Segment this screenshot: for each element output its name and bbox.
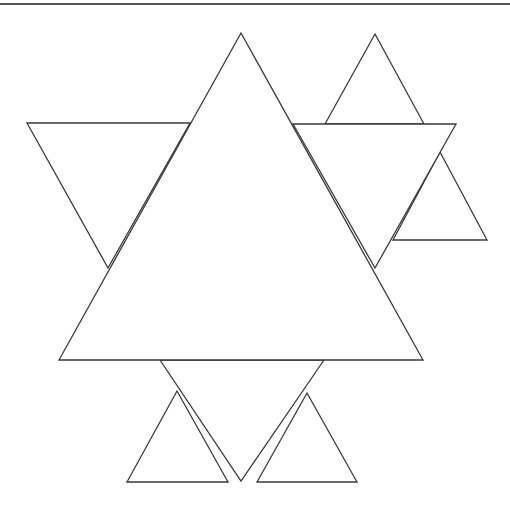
- triangle-diagram: [0, 0, 510, 529]
- top-right-small-triangle: [325, 34, 424, 124]
- triangle-group: [27, 33, 487, 482]
